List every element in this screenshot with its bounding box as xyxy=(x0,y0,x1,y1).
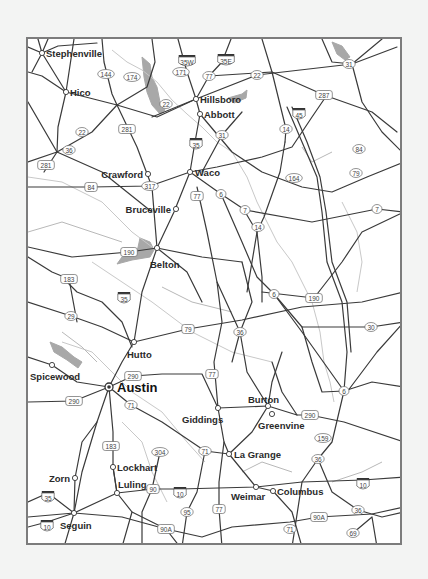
city-la-grange[interactable]: La Grange xyxy=(226,449,281,460)
us-route-shield: 90A xyxy=(158,525,175,534)
interstate-route-shield: 35 xyxy=(42,491,54,502)
city-label: Zorn xyxy=(49,473,70,484)
city-crawford[interactable]: Crawford xyxy=(101,169,150,180)
interstate-route-shield: 35E xyxy=(218,54,235,65)
state-route-shield: 30 xyxy=(365,323,377,332)
city-marker-icon xyxy=(131,339,136,344)
state-route-shield: 317 xyxy=(142,182,159,191)
city-label: Waco xyxy=(195,167,220,178)
city-spicewood[interactable]: Spicewood xyxy=(30,362,80,381)
route-number: 36 xyxy=(354,507,362,514)
route-number: 183 xyxy=(106,443,117,450)
city-hillsboro[interactable]: Hillsboro xyxy=(193,94,241,105)
route-number: 84 xyxy=(355,146,363,153)
city-marker-icon xyxy=(197,111,202,116)
state-route-shield: 6 xyxy=(339,387,349,396)
city-marker-icon xyxy=(145,171,150,176)
city-marker-icon xyxy=(269,411,274,416)
state-route-shield: 7 xyxy=(240,206,250,215)
route-number: 71 xyxy=(201,448,209,455)
city-luling[interactable]: Luling xyxy=(114,479,146,496)
route-number: 144 xyxy=(101,71,112,78)
minor-road xyxy=(242,462,292,472)
route-number: 22 xyxy=(78,129,86,136)
highway-line xyxy=(74,422,97,513)
route-number: 304 xyxy=(155,449,166,456)
state-route-shield: 31 xyxy=(343,60,355,69)
state-route-shield: 77 xyxy=(203,72,215,81)
highway-line xyxy=(182,451,205,545)
state-route-shield: 22 xyxy=(251,71,263,80)
city-giddings[interactable]: Giddings xyxy=(182,405,223,424)
route-number: 29 xyxy=(67,313,75,320)
city-bruceville[interactable]: Bruceville xyxy=(126,204,179,215)
route-number: 31 xyxy=(218,132,226,139)
city-label: Abbott xyxy=(204,109,235,120)
interstate-route-shield: 10 xyxy=(357,478,369,489)
city-label: Crawford xyxy=(101,169,143,180)
route-number: 290 xyxy=(305,412,316,419)
us-route-shield: 183 xyxy=(61,275,78,284)
city-lockhart[interactable]: Lockhart xyxy=(110,462,158,473)
state-route-shield: 6 xyxy=(216,190,226,199)
city-greenvine[interactable]: Greenvine xyxy=(258,411,304,430)
highway-line xyxy=(247,142,285,292)
city-marker-icon xyxy=(39,50,44,55)
city-marker-icon xyxy=(215,405,220,410)
city-label: Greenvine xyxy=(258,420,304,431)
route-number: 35W xyxy=(180,59,194,66)
city-austin[interactable]: Austin xyxy=(105,380,158,395)
us-route-shield: 290 xyxy=(66,397,83,406)
state-route-shield: 36 xyxy=(63,146,75,155)
city-marker-icon xyxy=(114,490,119,495)
us-route-shield: 190 xyxy=(121,248,138,257)
state-route-shield: 36 xyxy=(312,455,324,464)
route-number: 6 xyxy=(342,388,346,395)
highway-line xyxy=(274,294,402,327)
state-route-shield: 22 xyxy=(76,128,88,137)
city-label: Burton xyxy=(248,394,279,405)
road-map[interactable]: 35W35E1717722311441742228745222813114353… xyxy=(28,39,402,545)
minor-road xyxy=(28,222,122,242)
state-route-shield: 36 xyxy=(352,506,364,515)
city-marker-icon xyxy=(72,475,77,480)
city-marker-icon xyxy=(226,451,231,456)
city-hico[interactable]: Hico xyxy=(63,87,90,98)
city-waco[interactable]: Waco xyxy=(187,167,220,178)
city-zorn[interactable]: Zorn xyxy=(49,473,78,484)
route-number: 84 xyxy=(87,184,95,191)
route-number: 22 xyxy=(162,101,170,108)
city-label: Hutto xyxy=(127,349,152,360)
interstate-route-shield: 45 xyxy=(293,108,305,119)
route-number: 190 xyxy=(309,295,320,302)
city-columbus[interactable]: Columbus xyxy=(270,486,323,497)
state-route-shield: 71 xyxy=(199,447,211,456)
city-label: Bruceville xyxy=(126,204,171,215)
city-label: La Grange xyxy=(234,449,281,460)
state-route-shield: 29 xyxy=(65,312,77,321)
route-number: 77 xyxy=(205,73,213,80)
us-route-shield: 290 xyxy=(302,411,319,420)
highway-line xyxy=(190,95,327,172)
interstate-route-shield: 35 xyxy=(118,292,130,303)
route-number: 71 xyxy=(127,402,135,409)
route-number: 6 xyxy=(272,291,276,298)
state-route-shield: 69 xyxy=(347,529,359,538)
city-stephenville[interactable]: Stephenville xyxy=(39,48,102,59)
route-number: 77 xyxy=(215,506,223,513)
state-route-shield: 174 xyxy=(124,73,141,82)
us-route-shield: 90 xyxy=(147,485,159,494)
city-label: Lockhart xyxy=(117,462,158,473)
river-line xyxy=(92,262,272,362)
highway-line xyxy=(42,53,196,117)
route-number: 77 xyxy=(193,193,201,200)
highway-line xyxy=(302,327,402,392)
highway-line xyxy=(28,102,57,152)
route-number: 6 xyxy=(219,191,223,198)
state-route-shield: 79 xyxy=(350,169,362,178)
city-label: Hico xyxy=(70,87,91,98)
us-route-shield: 84 xyxy=(85,183,97,192)
city-abbott[interactable]: Abbott xyxy=(197,109,235,120)
state-route-shield: 171 xyxy=(173,68,190,77)
route-number: 281 xyxy=(122,126,133,133)
